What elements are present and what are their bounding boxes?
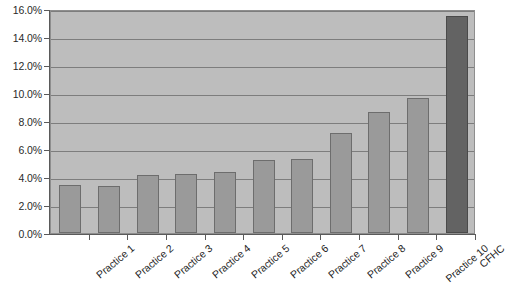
y-axis-tick-mark <box>44 150 49 151</box>
x-axis-tick-label: Practice 9 <box>403 242 446 281</box>
bar <box>407 98 429 233</box>
y-axis-tick-mark <box>44 206 49 207</box>
y-axis-tick-label: 6.0% <box>18 144 42 156</box>
bars-group <box>51 11 474 233</box>
x-axis-tick-label: Practice 8 <box>364 242 407 281</box>
plot-area <box>50 10 475 234</box>
x-axis-tick-label: Practice 6 <box>287 242 330 281</box>
x-axis-tick-label: Practice 2 <box>133 242 176 281</box>
bar <box>98 186 120 233</box>
y-axis-tick-mark <box>44 38 49 39</box>
y-axis-tick-label: 16.0% <box>13 4 42 16</box>
bar <box>446 16 468 233</box>
y-axis-tick-mark <box>44 122 49 123</box>
bar <box>175 174 197 234</box>
y-axis-tick-mark <box>44 66 49 67</box>
x-axis-tick-label: Practice 3 <box>171 242 214 281</box>
y-axis-tick-mark <box>44 10 49 11</box>
bar <box>59 185 81 233</box>
x-axis-tick-label: Practice 1 <box>94 242 137 281</box>
bar <box>137 175 159 233</box>
x-axis-tick-label: Practice 7 <box>326 242 369 281</box>
y-axis-tick-label: 14.0% <box>13 32 42 44</box>
x-axis: Practice 1Practice 2Practice 3Practice 4… <box>0 234 481 297</box>
y-axis-tick-label: 8.0% <box>18 116 42 128</box>
bar <box>214 172 236 233</box>
x-axis-tick-label: Practice 4 <box>210 242 253 281</box>
y-axis-line <box>49 10 50 235</box>
y-axis-tick-mark <box>44 178 49 179</box>
bar <box>368 112 390 233</box>
bar <box>253 160 275 233</box>
bar <box>291 159 313 233</box>
bar <box>330 133 352 233</box>
y-axis-tick-label: 4.0% <box>18 172 42 184</box>
x-axis-tick-label: Practice 5 <box>249 242 292 281</box>
y-axis-tick-label: 2.0% <box>18 200 42 212</box>
y-axis-tick-label: 10.0% <box>13 88 42 100</box>
y-axis-tick-mark <box>44 94 49 95</box>
y-axis-tick-label: 12.0% <box>13 60 42 72</box>
